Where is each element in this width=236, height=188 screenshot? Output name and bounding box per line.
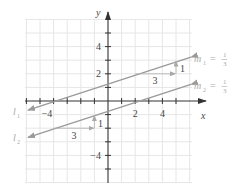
run-label-l1: 3 xyxy=(153,75,158,86)
run-label-l2: 3 xyxy=(72,130,77,141)
rise-label-l2: 1 xyxy=(98,118,103,129)
tick-label-x-4: 4 xyxy=(160,108,165,119)
svg-text:2: 2 xyxy=(17,139,20,145)
y-axis-label: y xyxy=(95,7,101,18)
tick-label-y-2: 2 xyxy=(96,68,101,79)
line-l1 xyxy=(28,57,191,110)
label-l2: l 2 xyxy=(13,132,20,145)
svg-text:1: 1 xyxy=(17,113,20,119)
x-axis-label: x xyxy=(200,110,206,121)
svg-text:1: 1 xyxy=(223,51,227,59)
label-l1: l 1 xyxy=(13,106,20,119)
coordinate-plane: −4 2 4 4 2 −4 x y 3 1 3 1 l 1 l 2 m 1 = … xyxy=(0,0,236,188)
svg-text:l: l xyxy=(13,132,16,143)
svg-text:l: l xyxy=(13,106,16,117)
svg-text:m: m xyxy=(194,80,201,91)
slope-label-m1: m 1 = 1 3 xyxy=(194,51,227,68)
rise-label-l1: 1 xyxy=(180,63,185,74)
svg-text:=: = xyxy=(210,80,216,91)
svg-text:2: 2 xyxy=(203,87,206,93)
svg-text:3: 3 xyxy=(223,87,227,95)
tick-label-x-neg4: −4 xyxy=(42,108,53,119)
slope-label-m2: m 2 = 1 3 xyxy=(194,78,227,95)
line-l2 xyxy=(28,84,191,137)
tick-label-y-4: 4 xyxy=(96,41,101,52)
tick-label-x-2: 2 xyxy=(133,108,138,119)
svg-text:3: 3 xyxy=(223,60,227,68)
tick-label-y-neg4: −4 xyxy=(90,150,101,161)
svg-text:1: 1 xyxy=(203,60,206,66)
svg-text:1: 1 xyxy=(223,78,227,86)
svg-text:=: = xyxy=(210,53,216,64)
svg-text:m: m xyxy=(194,53,201,64)
